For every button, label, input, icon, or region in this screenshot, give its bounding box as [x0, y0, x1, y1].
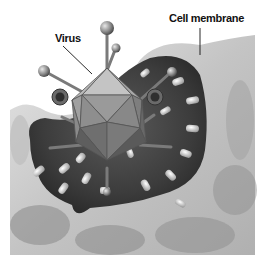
virus-pointer-line	[63, 46, 92, 74]
cell-membrane-label: Cell membrane	[169, 12, 244, 24]
virus-cell-diagram: Virus Cell membrane	[0, 0, 264, 265]
diagram-illustration	[0, 0, 264, 265]
virus-label: Virus	[55, 32, 81, 44]
